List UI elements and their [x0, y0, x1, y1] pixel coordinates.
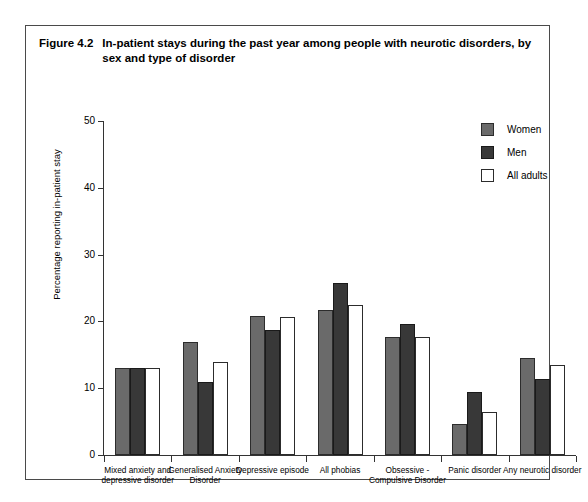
- bar-men-2: [265, 330, 280, 455]
- y-tick-mark: [98, 321, 103, 322]
- x-tick-mark: [374, 456, 375, 462]
- x-category-label-6: Any neurotic disorder: [503, 466, 582, 476]
- figure-frame: Figure 4.2 In-patient stays during the p…: [25, 25, 550, 480]
- y-tick-label: 40: [69, 182, 95, 193]
- y-axis-title: Percentage reporting in-patient stay: [51, 135, 62, 315]
- bar-women-6: [520, 358, 535, 455]
- bar-women-5: [452, 424, 467, 455]
- bar-men-3: [333, 283, 348, 455]
- bar-all-2: [280, 317, 295, 455]
- legend-item-all-adults: All adults: [481, 164, 548, 187]
- chart-screenshot: Figure 4.2 In-patient stays during the p…: [0, 0, 588, 502]
- legend-label: Women: [507, 124, 541, 135]
- y-tick-mark: [98, 455, 103, 456]
- x-tick-mark: [441, 456, 442, 462]
- legend-label: All adults: [507, 170, 548, 181]
- bar-all-3: [348, 305, 363, 455]
- bar-women-3: [318, 310, 333, 455]
- x-tick-mark: [509, 456, 510, 462]
- figure-number: Figure 4.2: [39, 36, 93, 51]
- figure-title-block: Figure 4.2 In-patient stays during the p…: [39, 36, 539, 66]
- bar-men-0: [130, 368, 145, 455]
- x-tick-mark-origin: [104, 456, 105, 462]
- legend-item-men: Men: [481, 141, 548, 164]
- y-tick-mark: [98, 121, 103, 122]
- bar-all-4: [415, 337, 430, 455]
- y-tick-label: 50: [69, 115, 95, 126]
- bar-women-4: [385, 337, 400, 455]
- bar-men-1: [198, 382, 213, 455]
- y-tick-mark: [98, 388, 103, 389]
- y-tick-label: 0: [69, 449, 95, 460]
- x-tick-mark: [171, 456, 172, 462]
- bar-all-1: [213, 362, 228, 455]
- bar-women-2: [250, 316, 265, 455]
- y-tick-label: 20: [69, 315, 95, 326]
- men-swatch-icon: [481, 146, 494, 159]
- women-swatch-icon: [481, 123, 494, 136]
- bar-all-5: [482, 412, 497, 455]
- legend: WomenMenAll adults: [481, 118, 548, 187]
- x-axis-line: [103, 455, 576, 456]
- bar-all-6: [550, 365, 565, 455]
- y-tick-mark: [98, 255, 103, 256]
- bar-men-4: [400, 324, 415, 455]
- page-title: In-patient stays during the past year am…: [102, 36, 539, 66]
- x-tick-mark: [576, 456, 577, 462]
- y-tick-label: 10: [69, 382, 95, 393]
- bar-all-0: [145, 368, 160, 456]
- all-adults-swatch-icon: [481, 169, 494, 182]
- legend-item-women: Women: [481, 118, 548, 141]
- bar-men-6: [535, 379, 550, 455]
- y-tick-label: 30: [69, 249, 95, 260]
- bar-women-1: [183, 342, 198, 455]
- bar-women-0: [115, 368, 130, 456]
- y-tick-mark: [98, 188, 103, 189]
- legend-label: Men: [507, 147, 526, 158]
- x-tick-mark: [306, 456, 307, 462]
- bar-men-5: [467, 392, 482, 455]
- x-tick-mark: [239, 456, 240, 462]
